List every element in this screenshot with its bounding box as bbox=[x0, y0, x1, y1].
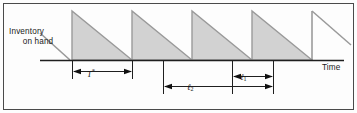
partial-right-depletion-line bbox=[312, 11, 351, 45]
lead-time-long-subscript: 2 bbox=[191, 86, 194, 92]
cycle-2-area bbox=[132, 11, 192, 60]
inventory-sawtooth-figure: Inventory on hand Time T* ℓ2 ℓ1 bbox=[0, 0, 357, 113]
cycle-3-area bbox=[192, 11, 252, 60]
arrow-T-head-left bbox=[73, 69, 81, 74]
cycle-4-area bbox=[252, 11, 312, 60]
lead-time-short-subscript: 1 bbox=[244, 76, 247, 82]
x-axis-label: Time bbox=[322, 63, 341, 73]
arrow-L1-head-right bbox=[265, 74, 273, 79]
cycle-1-area bbox=[72, 11, 132, 60]
lead-time-short-label: ℓ1 bbox=[240, 72, 247, 82]
arrow-L2-head-right bbox=[265, 84, 273, 89]
cycle-length-label: T* bbox=[87, 67, 95, 79]
sawtooth-cycles bbox=[72, 11, 312, 60]
annotation-T-star bbox=[73, 60, 133, 79]
y-axis-label-line2: on hand bbox=[9, 37, 71, 47]
cycle-length-superscript: * bbox=[92, 67, 95, 74]
sawtooth-plot bbox=[0, 0, 357, 113]
y-axis-label: Inventory on hand bbox=[9, 27, 71, 47]
y-axis-label-line1: Inventory bbox=[9, 27, 44, 36]
annotation-ell-1 bbox=[233, 60, 274, 94]
arrow-L2-head-left bbox=[164, 84, 172, 89]
lead-time-long-label: ℓ2 bbox=[187, 82, 194, 92]
arrow-T-head-right bbox=[124, 69, 132, 74]
partial-right-cycle bbox=[312, 11, 351, 60]
